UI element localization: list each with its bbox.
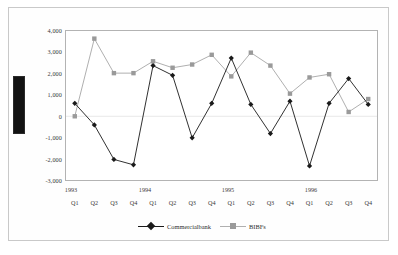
x-quarter-label: Q2 xyxy=(85,199,103,207)
legend-line-marker-square xyxy=(220,222,246,231)
x-quarter-label: Q1 xyxy=(66,199,84,207)
legend-entry-bibfs: BIBFs xyxy=(220,222,266,231)
x-quarter-label: Q4 xyxy=(203,199,221,207)
x-quarter-label: Q4 xyxy=(359,199,377,207)
y-tick-label: 4,000 xyxy=(20,27,62,34)
y-tick-label: 1,000 xyxy=(20,91,62,98)
chart-figure: 4,000 3,000 2,000 1,000 0 -1,000 -2,000 … xyxy=(0,0,398,255)
x-quarter-label: Q3 xyxy=(105,199,123,207)
legend-entry-commercialbank: Commercialbank xyxy=(138,222,211,231)
legend-label-bibfs: BIBFs xyxy=(248,223,266,230)
y-tick-label: -2,000 xyxy=(20,156,62,163)
x-quarter-label: Q3 xyxy=(261,199,279,207)
x-quarter-label: Q3 xyxy=(183,199,201,207)
x-quarter-label: Q2 xyxy=(164,199,182,207)
y-tick-label: -1,000 xyxy=(20,134,62,141)
x-year-label-1994: 1994 xyxy=(133,186,157,194)
x-quarter-label: Q1 xyxy=(222,199,240,207)
x-quarter-label: Q2 xyxy=(320,199,338,207)
y-tick-label: -3,000 xyxy=(20,177,62,184)
x-year-label-1993: 1993 xyxy=(59,186,83,194)
legend-line-marker-diamond xyxy=(138,222,164,231)
chart-legend: Commercialbank BIBFs xyxy=(138,219,266,233)
x-year-label-1996: 1996 xyxy=(299,186,323,194)
y-tick-label: 3,000 xyxy=(20,48,62,55)
x-quarter-label: Q2 xyxy=(242,199,260,207)
x-quarter-label: Q4 xyxy=(281,199,299,207)
legend-label-commercialbank: Commercialbank xyxy=(166,223,211,230)
x-year-label-1995: 1995 xyxy=(216,186,240,194)
y-tick-label: 2,000 xyxy=(20,70,62,77)
x-quarter-label: Q4 xyxy=(124,199,142,207)
y-axis-tick-labels: 4,000 3,000 2,000 1,000 0 -1,000 -2,000 … xyxy=(16,0,62,255)
x-quarter-label: Q1 xyxy=(144,199,162,207)
x-quarter-label: Q3 xyxy=(340,199,358,207)
plot-area xyxy=(65,30,378,181)
x-quarter-label: Q1 xyxy=(301,199,319,207)
y-tick-label: 0 xyxy=(20,113,62,120)
